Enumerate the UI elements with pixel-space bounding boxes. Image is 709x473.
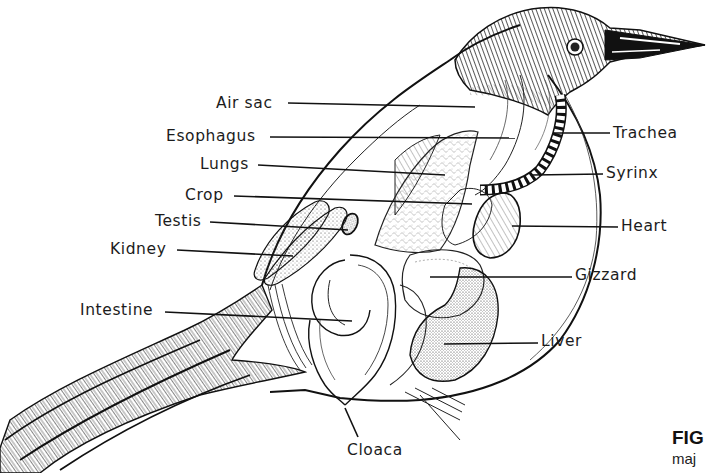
label-cloaca: Cloaca	[347, 443, 403, 459]
kidney	[254, 201, 347, 285]
label-heart: Heart	[621, 219, 667, 235]
intestine	[309, 255, 427, 405]
label-air-sac: Air sac	[216, 96, 273, 112]
label-liver: Liver	[541, 334, 582, 350]
lungs	[375, 131, 478, 253]
label-lungs: Lungs	[200, 157, 249, 173]
label-gizzard: Gizzard	[575, 268, 637, 284]
label-crop: Crop	[185, 188, 224, 204]
ureters	[268, 284, 312, 370]
label-testis: Testis	[155, 214, 202, 230]
figure-caption-text: maj	[672, 451, 704, 466]
bird-head	[455, 7, 705, 115]
figure-number: FIG	[672, 428, 704, 447]
label-kidney: Kidney	[110, 242, 166, 258]
label-esophagus: Esophagus	[166, 129, 256, 145]
label-trachea: Trachea	[613, 126, 678, 142]
label-syrinx: Syrinx	[606, 166, 658, 182]
liver	[410, 268, 498, 382]
bird-anatomy-diagram: Air sac Esophagus Lungs Crop Testis Kidn…	[0, 0, 709, 473]
figure-caption: FIG maj	[672, 428, 704, 466]
bird-illustration	[0, 0, 709, 473]
label-intestine: Intestine	[80, 303, 153, 319]
